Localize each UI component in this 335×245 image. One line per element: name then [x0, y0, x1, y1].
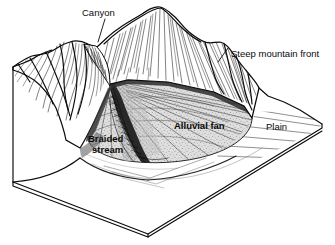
label-alluvial-fan: Alluvial fan: [174, 120, 225, 131]
label-plain: Plain: [266, 121, 287, 132]
canyon-leader: [98, 19, 105, 42]
diagram-canvas: Canyon Steep mountain front Alluvial fan…: [0, 0, 335, 245]
block-diagram-figure: Canyon Steep mountain front Alluvial fan…: [0, 0, 335, 245]
label-steep-mountain-front: Steep mountain front: [231, 48, 320, 59]
label-canyon: Canyon: [82, 7, 115, 18]
label-braided-stream-line2: stream: [92, 144, 123, 155]
label-braided-stream-line1: Braided: [88, 133, 124, 144]
